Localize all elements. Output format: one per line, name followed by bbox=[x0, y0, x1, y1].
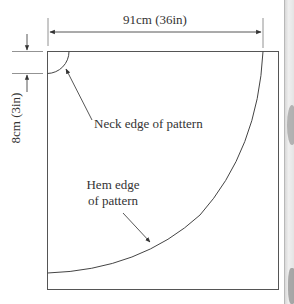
page-edge-shadow-bottom bbox=[288, 268, 294, 304]
hem-edge-label-line1: Hem edge bbox=[86, 177, 139, 192]
hem-edge-pointer bbox=[123, 213, 150, 242]
fabric-square bbox=[48, 52, 279, 290]
page-edge-strip bbox=[284, 0, 294, 304]
neck-edge-arc bbox=[48, 52, 70, 74]
offset-dimension-label: 8cm (3in) bbox=[8, 93, 23, 144]
hem-edge-label-line2: of pattern bbox=[88, 193, 139, 208]
pattern-diagram: 91cm (36in) 8cm (3in) Neck edge of patte… bbox=[0, 0, 294, 304]
neck-edge-label: Neck edge of pattern bbox=[94, 116, 203, 131]
page-edge-shadow bbox=[287, 105, 294, 145]
neck-edge-pointer bbox=[66, 69, 92, 120]
hem-edge-arc bbox=[48, 52, 264, 274]
width-dimension-label: 91cm (36in) bbox=[123, 12, 187, 27]
